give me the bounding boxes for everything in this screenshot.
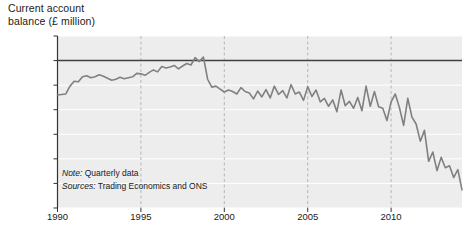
chart-plot: Note: Quarterly data Sources: Trading Ec… [0,0,465,230]
x-axis-tick-marks [58,208,392,212]
chart-figure: Current accountbalance (£ million) 50000… [0,0,465,230]
note-annotation: Note: Quarterly data [62,168,139,178]
sources-annotation: Sources: Trading Economics and ONS [62,181,208,191]
